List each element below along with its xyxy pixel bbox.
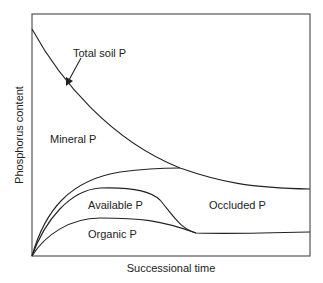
available-p-label: Available P <box>88 199 143 211</box>
occluded-p-label: Occluded P <box>209 199 266 211</box>
organic-p-curve <box>32 218 310 256</box>
organic-p-label: Organic P <box>88 228 137 240</box>
arrow-line <box>69 58 81 80</box>
x-axis-label: Successional time <box>127 262 216 274</box>
total-soil-p-label: Total soil P <box>73 47 126 59</box>
mineral-p-label: Mineral P <box>50 133 96 145</box>
y-axis-label: Phosphorus content <box>13 86 25 184</box>
mineral-boundary-curve <box>32 168 180 256</box>
phosphorus-diagram: Total soil P Mineral P Available P Organ… <box>0 0 323 283</box>
